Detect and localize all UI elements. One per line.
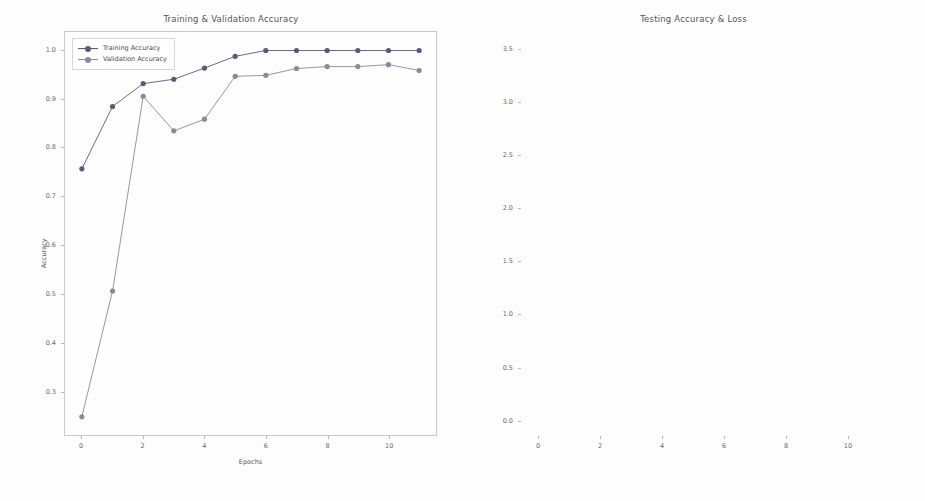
y-tick-label: 0.4 <box>22 339 56 347</box>
y-tick-label: 0.6 <box>22 241 56 249</box>
x-tick-mark <box>328 436 329 439</box>
y-tick-mark <box>518 155 521 156</box>
y-tick-mark <box>518 102 521 103</box>
y-tick-mark <box>61 245 64 246</box>
data-point-marker <box>325 64 330 69</box>
x-tick-label: 2 <box>580 442 620 450</box>
x-tick-label: 0 <box>518 442 558 450</box>
x-tick-label: 2 <box>123 442 163 450</box>
data-point-marker <box>294 48 299 53</box>
x-tick-mark <box>724 436 725 439</box>
data-point-marker <box>355 64 360 69</box>
y-tick-mark <box>518 49 521 50</box>
data-point-marker <box>386 62 391 67</box>
y-tick-label: 0.0 <box>479 417 513 425</box>
x-tick-label: 6 <box>704 442 744 450</box>
x-tick-mark <box>600 436 601 439</box>
data-point-marker <box>417 68 422 73</box>
data-point-marker <box>263 48 268 53</box>
data-point-marker <box>294 66 299 71</box>
y-tick-mark <box>518 208 521 209</box>
y-tick-label: 0.5 <box>22 290 56 298</box>
legend-label: Validation Accuracy <box>103 54 167 65</box>
x-tick-mark <box>266 436 267 439</box>
x-tick-label: 8 <box>308 442 348 450</box>
accuracy-legend: Training Accuracy Validation Accuracy <box>72 38 175 70</box>
x-tick-mark <box>786 436 787 439</box>
data-point-marker <box>325 48 330 53</box>
accuracy-series-layer <box>65 32 436 435</box>
y-tick-label: 0.9 <box>22 95 56 103</box>
y-tick-label: 1.0 <box>479 310 513 318</box>
data-point-marker <box>110 104 115 109</box>
y-tick-label: 3.5 <box>479 45 513 53</box>
y-tick-mark <box>518 421 521 422</box>
data-point-marker <box>233 74 238 79</box>
data-point-marker <box>417 48 422 53</box>
y-tick-mark <box>61 50 64 51</box>
y-tick-mark <box>518 261 521 262</box>
loss-chart-title: Testing Accuracy & Loss <box>462 14 925 24</box>
data-point-marker <box>202 65 207 70</box>
line-marker-icon <box>78 44 98 53</box>
legend-label: Training Accuracy <box>103 43 160 54</box>
data-point-marker <box>386 48 391 53</box>
x-tick-label: 4 <box>642 442 682 450</box>
data-point-marker <box>141 81 146 86</box>
x-tick-mark <box>662 436 663 439</box>
x-tick-mark <box>204 436 205 439</box>
y-tick-mark <box>61 294 64 295</box>
loss-chart: Testing Accuracy & Loss Training & Valid… <box>462 0 925 501</box>
accuracy-chart-title: Training & Validation Accuracy <box>0 14 462 24</box>
figure-canvas: Training & Validation Accuracy Accuracy … <box>0 0 925 501</box>
y-tick-mark <box>61 343 64 344</box>
y-tick-label: 3.0 <box>479 98 513 106</box>
accuracy-chart: Training & Validation Accuracy Accuracy … <box>0 0 462 501</box>
y-tick-mark <box>61 99 64 100</box>
y-tick-label: 1.0 <box>22 46 56 54</box>
y-tick-mark <box>61 392 64 393</box>
x-tick-mark <box>538 436 539 439</box>
data-point-marker <box>355 48 360 53</box>
x-tick-mark <box>81 436 82 439</box>
x-tick-mark <box>389 436 390 439</box>
y-tick-mark <box>61 147 64 148</box>
data-point-marker <box>263 73 268 78</box>
data-point-marker <box>110 288 115 293</box>
legend-item-validation-accuracy: Validation Accuracy <box>78 54 167 65</box>
accuracy-plot-area <box>64 31 437 436</box>
y-tick-mark <box>61 196 64 197</box>
y-tick-label: 0.7 <box>22 192 56 200</box>
y-tick-label: 0.3 <box>22 388 56 396</box>
data-point-marker <box>171 128 176 133</box>
line-marker-icon <box>78 55 98 64</box>
x-tick-label: 4 <box>184 442 224 450</box>
accuracy-x-axis-label: Epochs <box>64 458 437 466</box>
y-tick-label: 2.0 <box>479 204 513 212</box>
x-tick-label: 6 <box>246 442 286 450</box>
y-tick-label: 1.5 <box>479 257 513 265</box>
legend-item-training-accuracy: Training Accuracy <box>78 43 167 54</box>
y-tick-mark <box>518 314 521 315</box>
x-tick-label: 0 <box>61 442 101 450</box>
y-tick-label: 0.8 <box>22 143 56 151</box>
series-line <box>82 65 419 417</box>
x-tick-label: 10 <box>369 442 409 450</box>
x-tick-mark <box>848 436 849 439</box>
data-point-marker <box>171 77 176 82</box>
y-tick-label: 2.5 <box>479 151 513 159</box>
x-tick-mark <box>143 436 144 439</box>
data-point-marker <box>79 414 84 419</box>
data-point-marker <box>202 117 207 122</box>
y-tick-mark <box>518 368 521 369</box>
x-tick-label: 8 <box>766 442 806 450</box>
data-point-marker <box>141 94 146 99</box>
y-tick-label: 0.5 <box>479 364 513 372</box>
x-tick-label: 10 <box>828 442 868 450</box>
data-point-marker <box>233 54 238 59</box>
data-point-marker <box>79 166 84 171</box>
